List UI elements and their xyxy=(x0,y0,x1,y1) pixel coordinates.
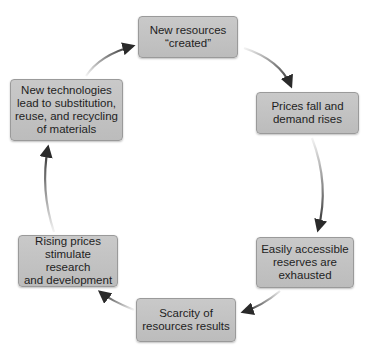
resource-cycle-diagram: New resources “created” Prices fall and … xyxy=(0,0,368,355)
node-new-resources: New resources “created” xyxy=(138,16,238,58)
node-rising-prices: Rising prices stimulate research and dev… xyxy=(18,235,118,287)
node-reserves-exhausted: Easily accessible reserves are exhausted xyxy=(256,237,354,288)
arrow-scarcity-to-rising-prices xyxy=(100,292,134,310)
arrow-reserves-exhausted-to-scarcity xyxy=(243,291,280,312)
node-new-technologies: New technologies lead to substitution, r… xyxy=(10,79,123,141)
arrow-new-technologies-to-new-resources xyxy=(86,46,133,76)
arrow-new-resources-to-prices-fall xyxy=(244,48,291,86)
node-prices-fall: Prices fall and demand rises xyxy=(256,92,359,134)
arrow-rising-prices-to-new-technologies xyxy=(45,147,54,232)
node-scarcity: Scarcity of resources results xyxy=(136,298,236,342)
arrow-prices-fall-to-reserves-exhausted xyxy=(312,138,323,230)
